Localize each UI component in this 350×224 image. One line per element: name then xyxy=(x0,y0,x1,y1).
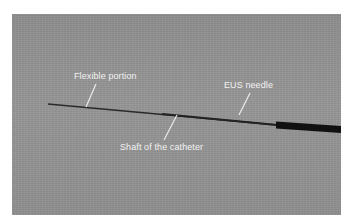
label-shaft-of-catheter: Shaft of the catheter xyxy=(120,142,203,152)
cropped-caption xyxy=(0,216,350,224)
catheter-illustration xyxy=(12,14,341,215)
catheter-thick-sheath xyxy=(276,122,341,134)
label-eus-needle: EUS needle xyxy=(224,80,273,90)
label-flexible-portion: Flexible portion xyxy=(74,71,137,81)
pointer-eus-needle xyxy=(239,93,250,115)
pointer-flexible-portion xyxy=(86,84,96,107)
pointer-shaft xyxy=(164,115,177,140)
catheter-photo: Flexible portion EUS needle Shaft of the… xyxy=(12,14,341,215)
